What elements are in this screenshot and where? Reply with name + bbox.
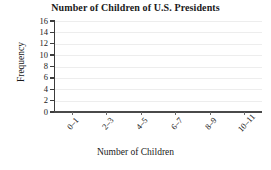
gridline: [55, 44, 262, 45]
y-axis-tick: [50, 89, 54, 90]
gridline: [55, 21, 262, 22]
x-axis-tick: [175, 112, 176, 115]
gridline: [55, 55, 262, 56]
x-axis-title: Number of Children: [0, 147, 271, 157]
plot-area: [55, 21, 262, 112]
y-axis-tick: [50, 32, 54, 33]
y-axis-tick: [50, 100, 54, 101]
y-axis-tick: [50, 43, 54, 44]
x-axis-line: [54, 111, 262, 113]
y-axis-tick-label: 0: [22, 108, 48, 117]
y-axis-tick: [50, 20, 54, 21]
x-axis-tick-label: 10–11: [236, 116, 253, 134]
gridline: [55, 101, 262, 102]
y-axis-tick: [50, 111, 54, 112]
histogram-figure: Number of Children of U.S. Presidents 02…: [0, 0, 271, 170]
y-axis-tick: [50, 66, 54, 67]
x-axis-tick-label: 2–3: [98, 116, 115, 134]
gridline: [55, 78, 262, 79]
y-axis-tick: [50, 54, 54, 55]
x-axis-tick: [106, 112, 107, 115]
x-axis-tick: [72, 112, 73, 115]
gridline: [55, 67, 262, 68]
y-axis-line: [54, 20, 55, 113]
gridline: [55, 89, 262, 90]
gridline: [55, 32, 262, 33]
x-axis-tick-label: 4–5: [133, 116, 150, 134]
x-axis-tick-label: 6–7: [167, 116, 184, 134]
x-axis-tick-label: 0–1: [64, 116, 81, 134]
y-axis-tick: [50, 77, 54, 78]
x-axis-tick: [210, 112, 211, 115]
x-axis-tick: [244, 112, 245, 115]
x-axis-tick: [141, 112, 142, 115]
x-axis-tick-label: 8–9: [202, 116, 219, 134]
y-axis-title: Frequency: [16, 22, 26, 102]
